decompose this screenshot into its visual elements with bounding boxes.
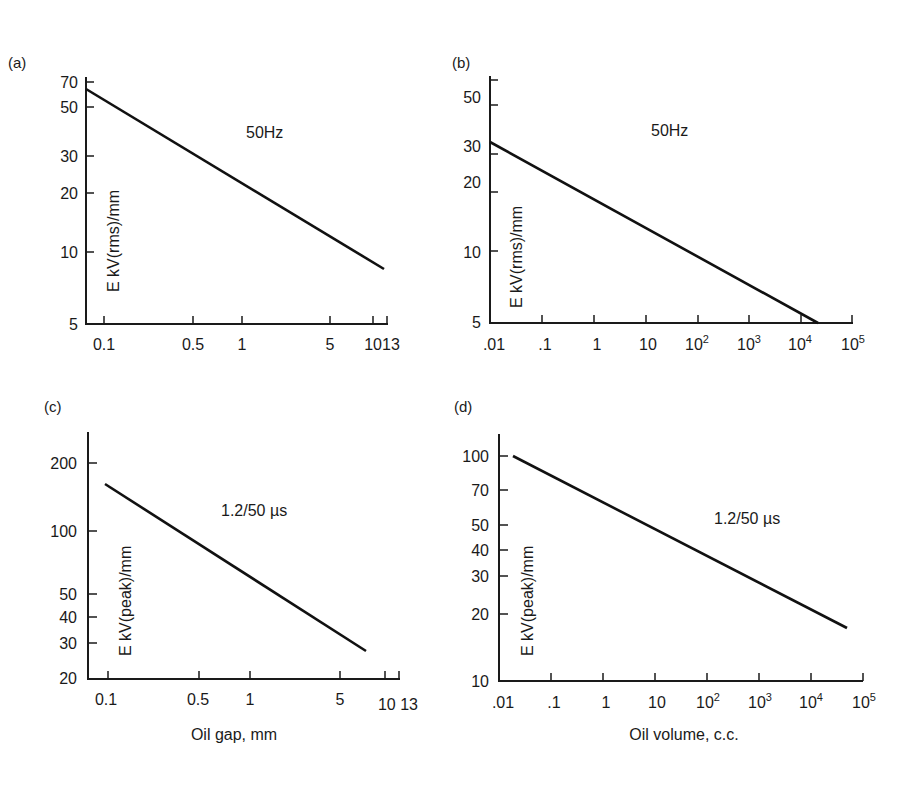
ytick-label: 20: [471, 606, 489, 623]
ytick-label: 200: [50, 455, 77, 472]
data-line-b: [490, 142, 818, 323]
annotation-b: 50Hz: [651, 122, 688, 139]
xtick-label: 102: [696, 691, 720, 711]
xtick-label: 5: [336, 691, 345, 708]
xtick-label: 0.1: [95, 691, 117, 708]
ytick-label: 20: [60, 185, 78, 202]
ytick-label: 30: [60, 148, 78, 165]
ytick-label: 10: [471, 673, 489, 690]
ytick-label: 40: [59, 609, 77, 626]
ytick-label: 30: [471, 568, 489, 585]
xtick-label: 1: [238, 336, 247, 353]
ytick-label: 100: [50, 523, 77, 540]
ytick-label: 50: [59, 586, 77, 603]
xtick-label: 0.5: [187, 691, 209, 708]
ytick-label: 20: [59, 670, 77, 687]
ytick-label: 30: [59, 635, 77, 652]
x-axis-label-c: Oil gap, mm: [191, 726, 277, 743]
y-axis-label-a: E kV(rms)/mm: [105, 190, 122, 292]
panel-label-d: (d): [454, 398, 472, 415]
xtick-label: .01: [492, 694, 514, 711]
x-axis-label-d: Oil volume, c.c.: [629, 726, 738, 743]
annotation-d: 1.2/50 µs: [714, 510, 780, 527]
ytick-label: 100: [462, 448, 489, 465]
xtick-label: .1: [547, 694, 560, 711]
y-axis-label-b: E kV(rms)/mm: [508, 206, 525, 308]
panel-d: (d) 100 70 50 40 30 20 10 .01 .1 1 10 10…: [454, 398, 876, 743]
axes-d: [499, 434, 863, 681]
ytick-label: 50: [60, 99, 78, 116]
panel-c: (c) 200 100 50 40 30 20 0.1 0.5 1 5 10 1…: [44, 398, 418, 743]
xtick-label: 104: [788, 333, 812, 353]
ytick-label: 50: [471, 517, 489, 534]
xtick-label: 0.5: [182, 336, 204, 353]
ytick-label: 10: [463, 244, 481, 261]
ytick-label: 70: [471, 482, 489, 499]
ytick-label: 50: [463, 89, 481, 106]
xtick-label: .01: [483, 336, 505, 353]
y-axis-label-d: E kV(peak)/mm: [519, 546, 536, 656]
xtick-label: 10: [639, 336, 657, 353]
annotation-a: 50Hz: [246, 124, 283, 141]
axes-b: [490, 76, 853, 323]
panel-label-c: (c): [44, 398, 62, 415]
xtick-label: 103: [737, 333, 761, 353]
ytick-label: 10: [60, 244, 78, 261]
xtick-label: 5: [326, 336, 335, 353]
y-axis-label-c: E kV(peak)/mm: [117, 546, 134, 656]
panel-b: (b) 50 30 20 10 5 .01 .1 1 10 102 103 10…: [452, 54, 865, 353]
data-line-d: [513, 456, 847, 628]
ytick-label: 30: [463, 138, 481, 155]
xtick-label: .1: [538, 336, 551, 353]
annotation-c: 1.2/50 µs: [221, 502, 287, 519]
panel-label-a: (a): [8, 54, 26, 71]
xtick-label: 10 13: [378, 696, 418, 713]
ytick-label: 40: [471, 542, 489, 559]
ytick-label: 70: [60, 74, 78, 91]
xtick-label: 103: [748, 691, 772, 711]
ytick-label: 5: [69, 316, 78, 333]
panel-a: (a) 70 50 30 20 10 5 0.1 0.5 1 5 1013 E …: [8, 54, 400, 353]
axes-a: [86, 77, 388, 324]
xtick-label: 102: [685, 333, 709, 353]
xtick-label: 1: [246, 691, 255, 708]
ytick-label: 20: [463, 174, 481, 191]
data-line-a: [86, 89, 384, 269]
xtick-label: 1: [593, 336, 602, 353]
xtick-label: 0.1: [93, 336, 115, 353]
xtick-label: 105: [852, 691, 876, 711]
xtick-label: 1013: [364, 336, 400, 353]
xtick-label: 1: [602, 694, 611, 711]
figure: (a) 70 50 30 20 10 5 0.1 0.5 1 5 1013 E …: [0, 0, 914, 786]
xtick-label: 105: [841, 333, 865, 353]
xtick-label: 104: [799, 691, 823, 711]
ytick-label: 5: [472, 314, 481, 331]
panel-label-b: (b): [452, 54, 470, 71]
xtick-label: 10: [648, 694, 666, 711]
